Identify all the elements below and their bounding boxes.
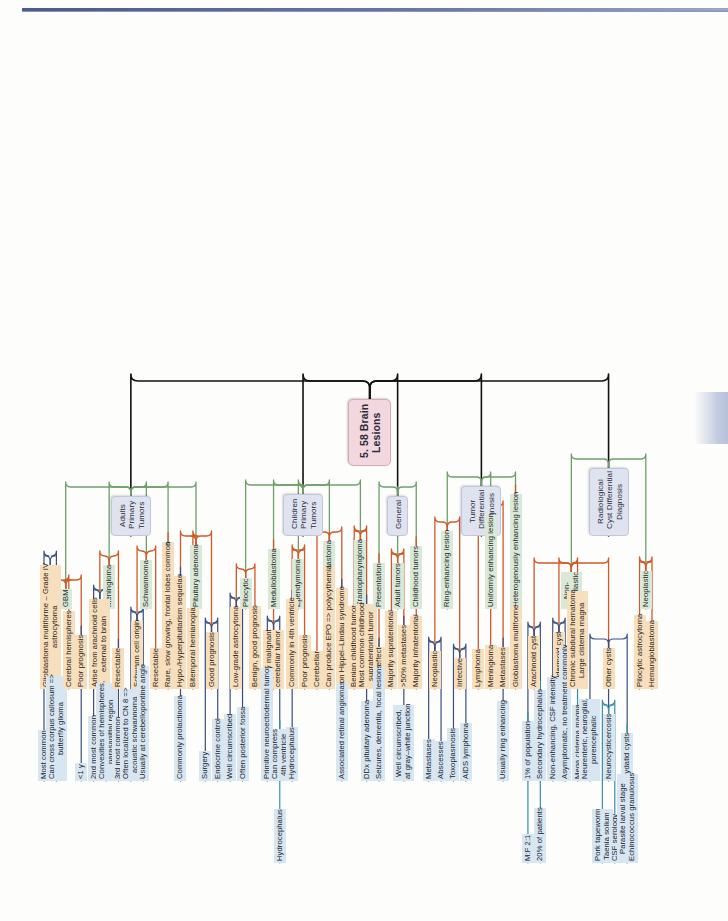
topic-node: Well circumscribed, at gray–white juncti… bbox=[393, 705, 414, 781]
mindmap-canvas: 5. 58 Brain LesionsAdults Primary Tumors… bbox=[0, 0, 728, 921]
topic-node: Majority infratentorial bbox=[410, 616, 422, 689]
branch-node[interactable]: Children Primary Tumors bbox=[283, 494, 323, 536]
topic-node: Usually at cerebellopontine angle bbox=[137, 666, 149, 781]
topic-node: Seizures, dementia, focal lesions bbox=[373, 667, 385, 781]
topic-node: Craniopharyngioma bbox=[354, 540, 366, 609]
topic-node: Globlastoma multiforme bbox=[510, 606, 522, 689]
topic-node: Other cysts bbox=[603, 648, 615, 689]
topic-node: GBM bbox=[60, 589, 72, 609]
topic-node: Poor prognosis bbox=[75, 635, 87, 689]
branch-node[interactable]: General bbox=[387, 496, 408, 536]
topic-node: Surgery bbox=[199, 751, 211, 781]
topic-node: Hemangioblastoma bbox=[646, 621, 658, 689]
topic-node: Benign, good prognosis bbox=[249, 606, 261, 689]
topic-node: Arise from arachnoid cells external to b… bbox=[89, 599, 110, 689]
topic-node: Cerebral hemispheres bbox=[63, 611, 75, 689]
topic-node: Resectable bbox=[112, 648, 124, 689]
topic-node: Infective bbox=[454, 658, 466, 689]
topic-node: Pilocytic astrocytoma bbox=[634, 615, 646, 689]
topic-node: Childhood tumors bbox=[410, 546, 422, 609]
topic-node: Uniformly enhancing lesion bbox=[485, 515, 497, 609]
topic-node: Adult tumors bbox=[392, 563, 404, 609]
topic-node: 20% of patients bbox=[534, 808, 546, 863]
topic-node: Low-grade astrocytoma bbox=[230, 607, 242, 689]
topic-node: Arachnoid cyst bbox=[528, 636, 540, 689]
center-node[interactable]: 5. 58 Brain Lesions bbox=[348, 399, 391, 466]
topic-node: Lymphoma bbox=[472, 649, 484, 689]
topic-node: Majority supratentorial bbox=[385, 611, 397, 689]
topic-node: Neurocysticercosis bbox=[603, 714, 615, 781]
topic-node: Commonly prolactinoma bbox=[174, 696, 186, 781]
mindmap-page: 5. 58 Brain LesionsAdults Primary Tumors… bbox=[0, 0, 728, 921]
topic-node: Good prognosis bbox=[206, 632, 218, 689]
topic-node: Meningioma bbox=[485, 645, 497, 689]
topic-node: Rare, slow growing, frontal lobes common bbox=[162, 545, 174, 689]
topic-node: Endocrine control bbox=[212, 719, 224, 781]
topic-node: Cerebellar bbox=[311, 651, 323, 689]
topic-node: Secondary hydrocephalus bbox=[534, 690, 546, 781]
topic-node: Toxoplasmosis bbox=[447, 728, 459, 781]
topic-node: Can cross corpus callosum => butterfly g… bbox=[46, 676, 67, 781]
topic-node: >50% metastases bbox=[398, 625, 410, 689]
topic-node: Presentation bbox=[373, 563, 385, 609]
topic-node: Poor prognosis bbox=[299, 635, 311, 689]
topic-node: Medulloblastoma bbox=[268, 549, 280, 609]
topic-node: Pituitary adenoma bbox=[190, 545, 202, 609]
topic-node: Usually ring enhancing bbox=[497, 701, 509, 781]
topic-node: DDx pituitary adenoma bbox=[361, 701, 373, 781]
topic-node: Metastases bbox=[423, 739, 435, 781]
topic-node: 1% of population bbox=[522, 721, 534, 781]
topic-node: Associated retinal angiomas bbox=[336, 683, 348, 781]
topic-node: Often posterior fossa bbox=[237, 707, 249, 781]
topic-node: Heterogenously enhancing lesion bbox=[510, 494, 522, 609]
topic-node: Can produce EPO => polycythemia bbox=[323, 567, 335, 689]
topic-node: M:F 2:1 bbox=[522, 834, 534, 863]
topic-node: Neoplastic bbox=[429, 651, 441, 689]
topic-node: Bitemporal hemianopia bbox=[187, 608, 199, 689]
topic-node: Hypo-/Hyperpituitarism sequelae bbox=[174, 576, 186, 689]
topic-node: Schwannoma bbox=[140, 560, 152, 609]
topic-node: Chronic subdural hematoma Large cisterna… bbox=[567, 591, 588, 689]
topic-node: Resectable bbox=[150, 648, 162, 689]
topic-node: <1 y bbox=[75, 763, 87, 781]
topic-node: Abscesses bbox=[435, 741, 447, 781]
topic-node: Hydrocephalus bbox=[286, 727, 298, 781]
topic-node: Parasite larval stage Echinococcus granu… bbox=[617, 774, 638, 863]
topic-node: von Hippel–Lindau syndrome bbox=[336, 588, 348, 689]
topic-node: Commonly in 4th ventricle bbox=[286, 599, 298, 689]
branch-node[interactable]: Adults Primary Tumors bbox=[111, 496, 151, 536]
topic-node: Ring-enhancing lesion bbox=[441, 531, 453, 609]
topic-node: Well circumscribed bbox=[224, 714, 236, 781]
topic-node: Glioblastoma multiforme – Grade IV astro… bbox=[40, 565, 61, 689]
topic-node: Non-enhancing, CSF intensity bbox=[547, 677, 559, 781]
topic-node: Hydrocephalus bbox=[274, 809, 286, 863]
topic-node: Metastases bbox=[497, 647, 509, 689]
topic-node: Neoplastic bbox=[640, 571, 652, 609]
branch-node[interactable]: Radiological Cyst Differential Diagnosis bbox=[589, 468, 629, 536]
topic-node: Neurenteric, neuroglial, porencephalic bbox=[579, 699, 600, 781]
topic-node: AIDS lymphoma bbox=[460, 723, 472, 781]
